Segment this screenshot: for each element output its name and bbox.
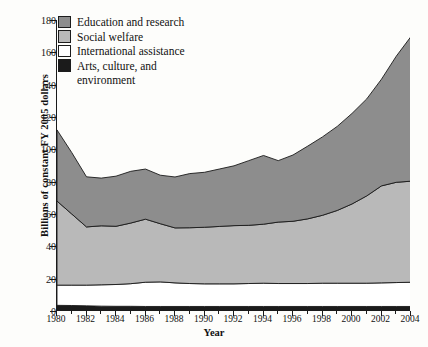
x-tick-mark-minor xyxy=(159,311,160,314)
area-series xyxy=(57,282,410,307)
y-tick-label: 140 xyxy=(0,79,56,90)
y-tick-label: 180 xyxy=(0,15,56,26)
legend-item[interactable]: Education and research xyxy=(58,15,185,30)
x-tick-mark xyxy=(145,311,146,316)
y-tick-label: 80 xyxy=(0,176,56,187)
legend-label: Education and research xyxy=(77,15,184,30)
x-tick-mark-minor xyxy=(366,311,367,314)
legend-label: Social welfare xyxy=(77,30,143,45)
y-tick-label: 20 xyxy=(0,273,56,284)
x-tick-mark xyxy=(86,311,87,316)
x-tick-mark xyxy=(322,311,323,316)
x-tick-mark-minor xyxy=(130,311,131,314)
x-axis-title: Year xyxy=(0,327,428,338)
x-tick-mark xyxy=(381,311,382,316)
x-tick-mark xyxy=(292,311,293,316)
legend-label: International assistance xyxy=(77,44,185,59)
chart-legend: Education and researchSocial welfareInte… xyxy=(58,15,185,88)
x-tick-mark xyxy=(174,311,175,316)
legend-swatch-icon xyxy=(58,45,71,58)
x-tick-mark-minor xyxy=(336,311,337,314)
x-tick-mark-minor xyxy=(71,311,72,314)
y-tick-label: 160 xyxy=(0,47,56,58)
x-tick-mark-minor xyxy=(189,311,190,314)
legend-swatch-icon xyxy=(58,16,71,29)
y-tick-label: 60 xyxy=(0,209,56,220)
chart-figure: Billions of constant FY 2005 dollars 020… xyxy=(0,0,428,347)
x-tick-mark-minor xyxy=(307,311,308,314)
legend-item[interactable]: International assistance xyxy=(58,44,185,59)
x-tick-mark-minor xyxy=(277,311,278,314)
legend-item[interactable]: Social welfare xyxy=(58,30,185,45)
x-tick-mark-minor xyxy=(395,311,396,314)
x-tick-mark xyxy=(204,311,205,316)
legend-label: Arts, culture, and xyxy=(77,59,157,74)
y-tick-label: 120 xyxy=(0,112,56,123)
x-tick-mark-minor xyxy=(100,311,101,314)
legend-item[interactable]: Arts, culture, and xyxy=(58,59,185,74)
x-tick-mark xyxy=(115,311,116,316)
y-tick-label: 40 xyxy=(0,241,56,252)
legend-swatch-icon xyxy=(58,30,71,43)
x-tick-mark xyxy=(263,311,264,316)
x-tick-mark xyxy=(233,311,234,316)
legend-swatch-icon xyxy=(58,59,71,72)
x-tick-mark xyxy=(410,311,411,316)
x-tick-mark xyxy=(56,311,57,316)
x-tick-mark-minor xyxy=(248,311,249,314)
x-tick-mark-minor xyxy=(218,311,219,314)
legend-label-continuation: environment xyxy=(77,73,185,88)
x-tick-mark xyxy=(351,311,352,316)
y-tick-label: 100 xyxy=(0,144,56,155)
